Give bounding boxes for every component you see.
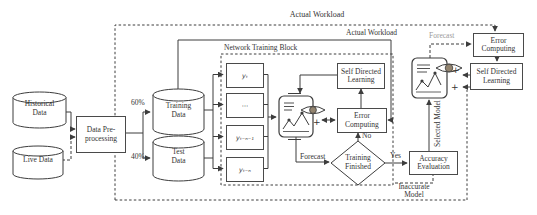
plus-sign-top-1: + (452, 66, 460, 75)
error-computing-top-box: Error Computing (473, 33, 524, 57)
split-60-label: 60% (131, 98, 145, 107)
input-box-1: yₜ (226, 63, 264, 88)
input-box-dots: ⋯ (226, 93, 264, 118)
error-computing-mid-box: Error Computing (337, 108, 387, 133)
forecast-top-label: Forecast (429, 31, 454, 40)
selected-model-label: Selected Model (433, 96, 442, 152)
training-finished-label: Training Finished (332, 153, 384, 171)
workflow-diagram: Actual Workload Actual Workload Forecast… (0, 0, 537, 215)
self-directed-learning-mid-box: Self Directed Learning (337, 63, 385, 89)
selected-model-icon (412, 58, 462, 98)
split-40-label: 40% (131, 152, 145, 161)
input-box-n: yₜ₋ₙ (226, 157, 264, 182)
plus-sign-top-2: + (451, 83, 459, 92)
diagram-lines (0, 0, 537, 215)
yes-label: Yes (390, 151, 401, 160)
data-preprocessing-box: Data Pre- processing (76, 116, 126, 153)
network-training-block-label: Network Training Block (224, 43, 297, 52)
training-data-label: Training Data (154, 101, 203, 119)
historical-data-label: Historical Data (14, 99, 65, 117)
accuracy-evaluation-box: Accuracy Evaluation (409, 151, 458, 175)
forecast-mid-label: Forecast (300, 152, 325, 161)
self-directed-learning-top-box: Self Directed Learning (470, 63, 523, 90)
test-data-label: Test Data (154, 147, 203, 165)
plus-sign-mid: + (313, 118, 321, 127)
inaccurate-model-label: Inaccurate Model (392, 183, 436, 199)
input-box-n-minus-1: yₜ₋ₙ₋₁ (226, 125, 264, 150)
live-data-label: Live Data (15, 155, 61, 164)
actual-workload-inner-label: Actual Workload (346, 28, 397, 37)
actual-workload-outer-label: Actual Workload (277, 10, 357, 19)
